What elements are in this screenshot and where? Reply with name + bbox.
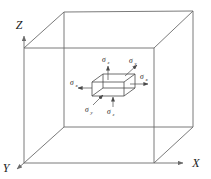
axis-z-label: Z [16, 18, 23, 32]
axis-x: X [154, 156, 200, 170]
sigma-y-upper-arrow-group: σ y [125, 56, 138, 76]
element-edge-depth-br [124, 88, 135, 96]
sigma-z-bottom-subscript: z [112, 112, 115, 117]
element-face-front [92, 82, 124, 96]
element-edge-depth-tl [92, 74, 103, 82]
bounding-cube [24, 11, 193, 163]
sigma-x-right-label: σ [140, 72, 144, 81]
sigma-x-right-subscript: x [145, 77, 149, 82]
stress-element-diagram: Z Y X σ z [0, 0, 211, 179]
sigma-y-lower-label: σ [85, 105, 89, 114]
axis-z: Z [16, 18, 24, 48]
figure-container: Z Y X σ z [0, 0, 211, 179]
sigma-x-left-arrow-group: σ x [70, 78, 92, 88]
cube-edge-depth-top-left [24, 12, 64, 48]
axis-x-label: X [191, 156, 200, 170]
axis-y: Y [3, 161, 24, 175]
sigma-x-left-label: σ [70, 78, 74, 87]
axis-y-line [17, 163, 24, 169]
sigma-z-top-label: σ [102, 55, 106, 64]
sigma-y-lower-arrow-group: σ y [85, 95, 103, 115]
element-edge-depth-bl [92, 88, 103, 96]
sigma-z-top-subscript: z [107, 60, 110, 65]
stress-element [92, 74, 135, 96]
cube-edge-depth-top-right [154, 11, 193, 48]
sigma-y-upper-label: σ [129, 56, 133, 65]
sigma-x-left-subscript: x [75, 83, 79, 88]
axis-y-label: Y [3, 161, 11, 175]
sigma-y-lower-arrow [93, 95, 103, 105]
cube-edge-back-top [64, 11, 193, 12]
sigma-y-lower-subscript: y [90, 110, 94, 115]
sigma-z-bottom-arrow-group: σ z [107, 97, 115, 117]
sigma-z-bottom-label: σ [107, 107, 111, 116]
cube-edge-depth-bottom-left [24, 127, 64, 163]
cube-edge-depth-bottom-right [154, 127, 193, 163]
